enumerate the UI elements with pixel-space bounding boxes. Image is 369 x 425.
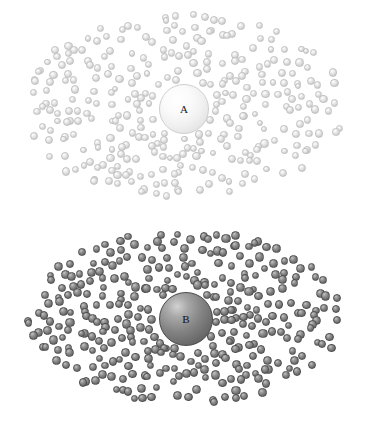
particle: [243, 362, 250, 369]
particle: [180, 244, 189, 253]
particle: [33, 108, 41, 116]
particle: [253, 306, 260, 313]
particle: [81, 162, 88, 169]
particle: [295, 83, 302, 90]
particle: [192, 152, 200, 160]
particle: [333, 294, 341, 302]
particle: [201, 281, 209, 289]
particle: [302, 301, 311, 310]
particle: [177, 162, 184, 169]
particle: [270, 56, 278, 64]
particle: [219, 80, 227, 88]
particle: [234, 133, 241, 140]
particle: [264, 60, 271, 67]
particle: [47, 276, 55, 284]
particle: [332, 305, 341, 314]
particle: [99, 274, 107, 282]
particle: [298, 164, 306, 172]
particle: [80, 147, 87, 154]
particle: [228, 262, 235, 269]
particle: [269, 259, 278, 268]
particle: [46, 317, 54, 325]
particle: [85, 97, 93, 105]
particle: [93, 37, 101, 45]
particle: [94, 64, 102, 72]
particle: [86, 158, 94, 166]
particle: [325, 107, 333, 115]
particle: [179, 28, 186, 35]
particle: [137, 173, 144, 180]
particle: [256, 63, 264, 71]
particle: [160, 143, 168, 151]
particle: [156, 369, 164, 377]
particle: [259, 79, 266, 86]
particle: [124, 387, 132, 395]
particle: [101, 362, 108, 369]
particle: [283, 334, 291, 342]
particle: [174, 67, 182, 75]
particle: [165, 264, 173, 272]
particle: [289, 70, 296, 77]
particle: [288, 95, 296, 103]
particle: [114, 180, 121, 187]
particle: [293, 142, 300, 149]
particle: [74, 107, 81, 114]
particle: [245, 341, 253, 349]
particle: [93, 245, 101, 253]
particle: [148, 38, 156, 46]
particle: [283, 58, 291, 66]
particle: [212, 359, 220, 367]
particle: [116, 237, 124, 245]
particle: [123, 253, 131, 261]
particle: [161, 179, 169, 187]
particle: [249, 44, 256, 51]
particle: [296, 264, 305, 273]
particle: [218, 17, 226, 25]
particle: [138, 394, 147, 403]
particle: [43, 326, 51, 334]
particle: [58, 61, 66, 69]
particle: [149, 92, 157, 100]
particle: [332, 128, 339, 135]
particle: [254, 292, 263, 301]
particle: [59, 334, 66, 341]
particle: [181, 136, 188, 143]
particle: [108, 63, 115, 70]
particle: [47, 127, 54, 134]
particle: [205, 180, 213, 188]
particle: [294, 335, 302, 343]
particle: [76, 270, 84, 278]
particle: [181, 262, 190, 271]
particle: [311, 105, 319, 113]
particle: [199, 166, 207, 174]
particle: [101, 53, 108, 60]
particle: [124, 301, 132, 309]
particle: [89, 363, 97, 371]
particle: [164, 74, 171, 81]
particle: [246, 157, 253, 164]
particle: [240, 103, 247, 110]
particle: [130, 240, 138, 248]
particle: [107, 372, 116, 381]
particle: [90, 177, 98, 185]
particle: [117, 36, 125, 44]
particle: [191, 24, 198, 31]
particle: [129, 50, 136, 57]
particle: [281, 46, 288, 53]
particle: [211, 370, 220, 379]
particle: [106, 248, 115, 257]
particle: [304, 116, 311, 123]
particle: [93, 301, 101, 309]
particle: [198, 246, 207, 255]
particle: [80, 342, 89, 351]
particle: [91, 376, 100, 385]
particle: [115, 75, 123, 83]
particle: [170, 378, 178, 386]
particle: [231, 57, 239, 65]
particle: [310, 49, 317, 56]
particle: [60, 136, 67, 143]
particle: [210, 398, 218, 406]
particle: [236, 252, 244, 260]
panel-b: B: [0, 212, 369, 425]
particle: [134, 24, 141, 31]
